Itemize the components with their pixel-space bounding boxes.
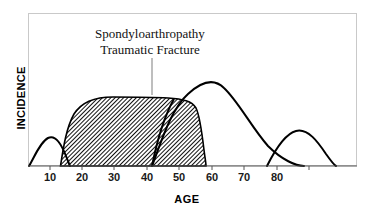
hatched-area-path bbox=[61, 97, 207, 166]
hatched-incidence-region bbox=[61, 97, 207, 166]
x-tick-label-80: 80 bbox=[257, 171, 297, 183]
late-life-peak-curve bbox=[267, 131, 336, 166]
x-axis-title: AGE bbox=[0, 193, 374, 205]
annotation-spondyloarthropathy: Spondyloarthropathy bbox=[0, 26, 300, 42]
y-axis-title: INCIDENCE bbox=[15, 60, 27, 136]
annotation-traumatic-fracture: Traumatic Fracture bbox=[0, 42, 300, 58]
incidence-vs-age-chart: INCIDENCE AGE 10 20 30 40 50 60 70 80 Sp… bbox=[0, 0, 374, 222]
